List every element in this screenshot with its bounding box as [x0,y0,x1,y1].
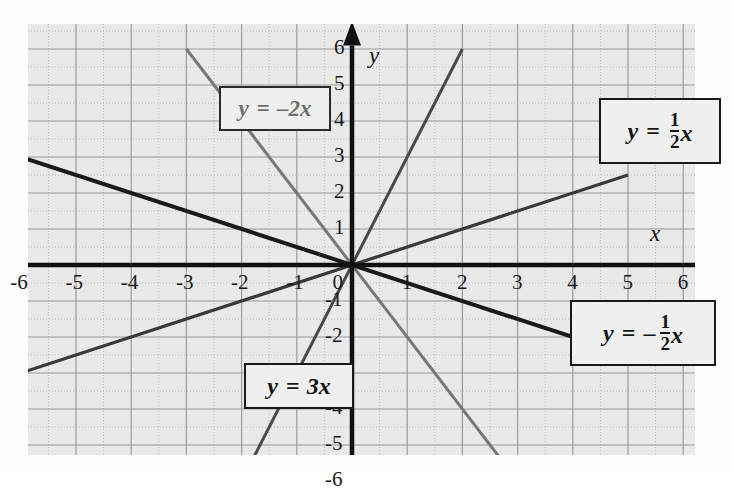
y-tick-label: 1 [334,217,345,238]
callout-lhs: y [628,119,639,143]
callout-variable: x [671,323,683,347]
fraction-denominator: 2 [660,335,670,353]
x-tick-label: 1 [402,272,413,293]
callout-equals: = [646,119,660,143]
x-axis-label: x [650,222,660,245]
y-tick-label: -6 [325,469,343,490]
fraction-numerator: 1 [660,313,670,331]
callout-y-equals-3x: y = 3x [244,363,354,409]
fraction-numerator: 1 [670,111,680,129]
x-tick-label: 5 [623,272,634,293]
callout-variable: x [680,121,692,145]
callout-lhs: y [603,321,614,345]
x-tick-label: -5 [66,272,84,293]
fraction-denominator: 2 [670,133,680,151]
major-gridlines [28,24,695,455]
callout-y-equals-negative-half-x: y = – 1 2 x [570,300,716,366]
x-tick-label: -2 [231,272,249,293]
fraction-one-half: 1 2 [660,313,670,354]
x-tick-label: 4 [567,272,578,293]
y-tick-label: 2 [334,181,345,202]
callout-equals: = [622,321,636,345]
callout-lhs: y [267,374,278,398]
x-tick-label: -4 [121,272,139,293]
callout-equals: = [257,97,270,120]
x-tick-label: 2 [457,272,468,293]
x-tick-label: 3 [512,272,523,293]
y-tick-label: -5 [325,433,343,454]
y-tick-label: -2 [325,325,343,346]
callout-fraction: 1 2 x [659,313,683,354]
x-tick-label: -3 [176,272,194,293]
x-tick-label: 6 [678,272,689,293]
y-tick-label: -1 [325,289,343,310]
y-tick-label: 6 [334,37,345,58]
callout-minus-sign: – [643,321,655,345]
y-tick-label: 4 [334,109,345,130]
callout-rhs: 3x [307,374,331,398]
x-tick-label: -6 [10,272,28,293]
callout-y-equals-minus-2x: y = –2x [219,86,331,131]
y-tick-label: 3 [334,145,345,166]
fraction-one-half: 1 2 [670,111,680,152]
y-axis-label: y [369,44,379,67]
axes-lines [28,24,695,455]
callout-fraction: 1 2 x [669,111,693,152]
minor-gridlines [28,24,695,455]
coordinate-plane-svg [28,24,695,455]
callout-y-equals-half-x: y = 1 2 x [599,98,721,164]
plot-area [28,24,695,455]
callout-rhs: –2x [277,97,312,120]
callout-equals: = [286,374,300,398]
x-tick-label: -1 [286,272,304,293]
y-tick-label: 5 [334,73,345,94]
callout-lhs: y [239,97,249,120]
